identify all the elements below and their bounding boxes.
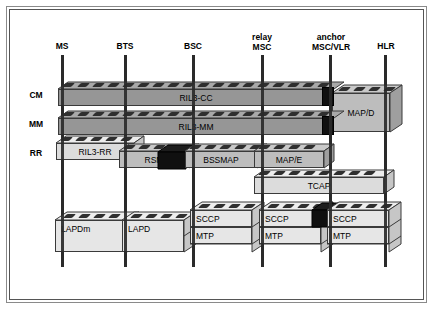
column-line-ms-front	[61, 55, 64, 267]
column-line-anchor-msc-front	[329, 55, 332, 267]
block-sccp-anchor-label: SCCP	[328, 214, 357, 224]
column-line-bts-front	[124, 55, 127, 267]
column-line-hlr-front	[384, 55, 387, 267]
block-mtp-anchor-face: MTP	[327, 227, 389, 244]
column-line-relay-msc-front	[261, 55, 264, 267]
block-sccp-anchor-face: SCCP	[327, 210, 389, 227]
column-line-bsc-front	[192, 55, 195, 267]
block-sccp-anchor: SCCP MTP	[327, 202, 389, 252]
diagram-canvas: CM MM RR MS BTS BSC relay MSC anchor MSC…	[0, 0, 435, 311]
connector-sccp-anchor-3d	[0, 0, 435, 311]
